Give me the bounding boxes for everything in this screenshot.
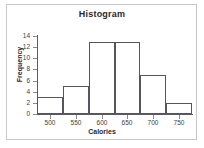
histogram-bar (115, 42, 140, 114)
histogram-screenshot: Histogram Frequency Calories 02468101214… (0, 0, 204, 148)
histogram-bar (37, 97, 63, 114)
histogram-bars (0, 0, 204, 148)
histogram-bar (89, 42, 115, 114)
histogram-bar (140, 75, 166, 114)
histogram-bar (166, 103, 192, 114)
histogram-bar (63, 86, 89, 114)
